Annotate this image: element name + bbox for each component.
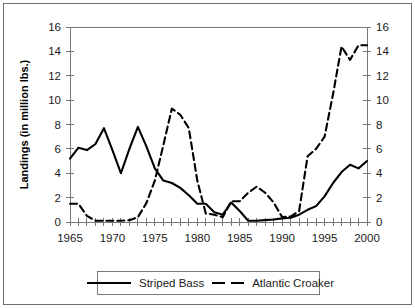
series-line-atlantic-croaker bbox=[70, 45, 367, 221]
legend-label-atlantic-croaker: Atlantic Croaker bbox=[250, 277, 336, 289]
x-tick-label: 1965 bbox=[57, 232, 83, 244]
y-tick-label: 8 bbox=[55, 119, 61, 131]
x-tick-label: 1970 bbox=[100, 232, 126, 244]
tick-labels: 0022446688101012121414161619651970197519… bbox=[48, 21, 389, 244]
line-chart: 0022446688101012121414161619651970197519… bbox=[0, 0, 415, 308]
y-tick-label: 16 bbox=[48, 21, 61, 33]
data-series bbox=[70, 45, 367, 221]
legend: Striped Bass Atlantic Croaker bbox=[97, 271, 320, 295]
y-tick-label: 6 bbox=[55, 143, 61, 155]
y-axis-title: Landings (in million lbs.) bbox=[18, 59, 30, 189]
legend-entry-striped-bass: Striped Bass bbox=[81, 277, 231, 289]
y-tick-label: 10 bbox=[48, 94, 61, 106]
legend-swatch-dash-segment-1 bbox=[212, 282, 225, 284]
y-tick-label-right: 8 bbox=[376, 119, 382, 131]
y-tick-label-right: 6 bbox=[376, 143, 382, 155]
y-tick-label-right: 10 bbox=[376, 94, 389, 106]
legend-entry-atlantic-croaker: Atlantic Croaker bbox=[231, 277, 336, 289]
y-tick-label-right: 0 bbox=[376, 216, 382, 228]
y-tick-label: 12 bbox=[48, 70, 61, 82]
x-tick-label: 1985 bbox=[227, 232, 253, 244]
y-tick-label-right: 2 bbox=[376, 192, 382, 204]
y-axis-title-text: Landings (in million lbs.) bbox=[18, 59, 30, 189]
x-tick-label: 2000 bbox=[354, 232, 380, 244]
y-tick-label: 2 bbox=[55, 192, 61, 204]
axes bbox=[70, 27, 367, 222]
figure: 0022446688101012121414161619651970197519… bbox=[0, 0, 415, 308]
y-tick-label: 0 bbox=[55, 216, 61, 228]
legend-swatch-solid-line bbox=[87, 282, 131, 284]
x-tick-label: 1980 bbox=[184, 232, 210, 244]
y-tick-label: 4 bbox=[55, 167, 62, 179]
legend-swatch-dash-segment-2 bbox=[231, 282, 244, 284]
x-tick-label: 1990 bbox=[269, 232, 295, 244]
y-tick-label-right: 16 bbox=[376, 21, 389, 33]
y-tick-label: 14 bbox=[48, 45, 61, 57]
legend-label-striped-bass: Striped Bass bbox=[137, 277, 206, 289]
x-tick-label: 1975 bbox=[142, 232, 168, 244]
x-tick-label: 1995 bbox=[312, 232, 338, 244]
y-tick-label-right: 4 bbox=[376, 167, 383, 179]
y-tick-label-right: 14 bbox=[376, 45, 389, 57]
y-tick-label-right: 12 bbox=[376, 70, 389, 82]
